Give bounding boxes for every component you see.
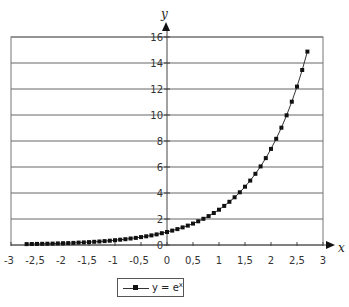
data-point <box>45 242 49 246</box>
x-tick-label: -0,5 <box>129 255 149 266</box>
data-point <box>181 225 185 229</box>
data-point <box>264 156 268 160</box>
data-point <box>97 240 101 244</box>
data-point <box>279 126 283 130</box>
legend: y = ex <box>117 278 184 297</box>
data-point <box>40 242 44 246</box>
y-tick-label: 8 <box>157 136 163 147</box>
data-point <box>217 208 221 212</box>
x-tick-label: -3 <box>4 255 14 266</box>
data-point <box>108 239 112 243</box>
data-point <box>191 222 195 226</box>
data-point <box>305 50 309 54</box>
y-tick-label: 0 <box>157 240 163 251</box>
data-point <box>222 204 226 208</box>
x-axis-arrow-icon <box>326 241 335 249</box>
axes <box>11 28 328 246</box>
data-point <box>212 211 216 215</box>
data-point <box>253 172 257 176</box>
data-point <box>285 113 289 117</box>
data-point <box>35 242 39 246</box>
y-axis-name: y <box>160 7 168 21</box>
legend-marker-icon <box>123 283 149 293</box>
x-tick-labels: -3-2,5-2-1,5-1-0,500,511,522,53 <box>4 255 326 266</box>
data-point <box>87 240 91 244</box>
data-point <box>300 68 304 72</box>
x-tick-label: 0,5 <box>185 255 201 266</box>
data-point <box>290 100 294 104</box>
data-point <box>71 241 75 245</box>
data-point <box>274 137 278 141</box>
y-tick-label: 6 <box>157 162 163 173</box>
data-point <box>186 224 190 228</box>
data-point <box>165 230 169 234</box>
data-point <box>134 236 138 240</box>
data-point <box>196 219 200 223</box>
y-tick-label: 4 <box>157 188 163 199</box>
y-tick-label: 10 <box>150 110 163 121</box>
data-point <box>155 232 159 236</box>
data-point <box>82 240 86 244</box>
x-axis-name: x <box>338 241 345 255</box>
data-point <box>139 235 143 239</box>
data-point <box>243 185 247 189</box>
data-point <box>25 242 29 246</box>
x-tick-label: -2,5 <box>25 255 45 266</box>
data-point <box>103 239 107 243</box>
y-axis-arrow-icon <box>162 22 170 31</box>
data-point <box>160 231 164 235</box>
data-point <box>51 242 55 246</box>
data-point <box>175 227 179 231</box>
x-tick-label: -1 <box>108 255 118 266</box>
data-point <box>129 237 133 241</box>
data-point <box>207 214 211 218</box>
data-point <box>170 229 174 233</box>
x-tick-label: 0 <box>164 255 170 266</box>
data-point <box>259 164 263 168</box>
y-tick-label: 16 <box>150 32 163 43</box>
data-point <box>123 237 127 241</box>
data-point <box>118 238 122 242</box>
data-point <box>77 241 81 245</box>
data-point <box>56 241 60 245</box>
data-point <box>201 217 205 221</box>
y-tick-label: 14 <box>150 58 163 69</box>
data-point <box>30 242 34 246</box>
x-tick-label: 1,5 <box>237 255 253 266</box>
data-point <box>295 85 299 89</box>
x-tick-label: -1,5 <box>77 255 97 266</box>
x-tick-label: -2 <box>56 255 66 266</box>
y-tick-label: 12 <box>150 84 163 95</box>
x-tick-label: 2,5 <box>289 255 305 266</box>
y-tick-label: 2 <box>157 214 163 225</box>
data-point <box>269 147 273 151</box>
data-point <box>61 241 65 245</box>
legend-label: y = ex <box>152 281 183 293</box>
x-tick-label: 2 <box>268 255 274 266</box>
data-point <box>149 233 153 237</box>
x-tick-label: 3 <box>320 255 326 266</box>
data-point <box>144 234 148 238</box>
data-point <box>227 200 231 204</box>
x-tick-label: 1 <box>216 255 222 266</box>
chart: 0246810121416 -3-2,5-2-1,5-1-0,500,511,5… <box>0 0 349 307</box>
data-point <box>248 179 252 183</box>
data-point <box>66 241 70 245</box>
data-point <box>233 195 237 199</box>
data-point <box>238 190 242 194</box>
data-point <box>92 240 96 244</box>
data-point <box>113 238 117 242</box>
